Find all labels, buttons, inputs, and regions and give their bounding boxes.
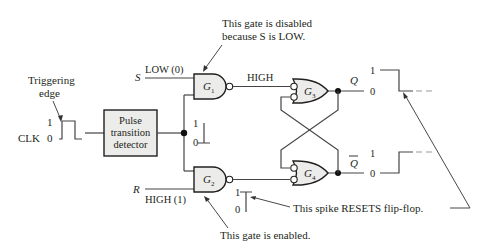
q-high-label: 1 xyxy=(370,65,375,76)
arrow-head-icon xyxy=(403,92,408,99)
q-waveform xyxy=(380,70,432,91)
arrow-head-icon xyxy=(204,196,210,202)
qbar-label-group: Q xyxy=(349,156,358,169)
pulse-transition-detector: Pulse transition detector xyxy=(104,110,157,156)
g1-disabled-annotation: This gate is disabled because S is LOW. xyxy=(203,17,313,72)
spike-high-label: 1 xyxy=(235,187,240,198)
spike-low-label: 0 xyxy=(235,204,240,215)
clk-high-label: 1 xyxy=(47,116,53,128)
r-label: R xyxy=(132,183,140,195)
q-label: Q xyxy=(350,74,358,86)
junction-dot xyxy=(181,130,187,136)
g3-label: G xyxy=(304,85,312,97)
sr-latch-diagram: CLK 1 0 Triggering edge Pulse transition… xyxy=(0,0,487,252)
g1-label: G xyxy=(203,80,211,92)
gate-g2-nand: G 2 xyxy=(194,167,233,192)
arrow-head-icon xyxy=(250,196,256,200)
g1-note-1: This gate is disabled xyxy=(222,17,313,29)
detector-text-1: Pulse xyxy=(119,115,142,126)
g1-output-label: HIGH xyxy=(247,72,274,83)
qbar-label: Q xyxy=(350,157,358,169)
gate-g1-nand: G 1 xyxy=(194,74,233,99)
clk-low-label: 0 xyxy=(47,132,53,144)
s-label: S xyxy=(135,71,141,83)
triggering-edge-text-2: edge xyxy=(39,87,60,99)
s-value: LOW (0) xyxy=(145,64,184,76)
clk-label: CLK xyxy=(18,132,40,144)
gate-g4-nand: G 4 xyxy=(291,161,328,185)
g1-note-2: because S is LOW. xyxy=(222,30,306,42)
r-input: R HIGH (1) xyxy=(132,183,194,206)
qbar-high-label: 1 xyxy=(370,148,375,159)
qbar-waveform xyxy=(380,152,432,173)
triggering-edge-text-1: Triggering xyxy=(28,74,75,86)
gate-g3-nand: G 3 xyxy=(291,79,328,103)
detector-text-3: detector xyxy=(114,139,148,150)
spike-resets-text: This spike RESETS flip-flop. xyxy=(293,202,423,214)
q-low-label: 0 xyxy=(370,86,375,97)
pulse-low-label: 0 xyxy=(193,137,198,148)
g2-label: G xyxy=(203,173,211,185)
g3-subscript: 3 xyxy=(312,92,316,100)
g2-subscript: 2 xyxy=(211,180,215,188)
g1-subscript: 1 xyxy=(211,87,215,95)
g4-label: G xyxy=(304,167,312,179)
triggering-edge-annotation: Triggering edge xyxy=(28,74,75,122)
r-value: HIGH (1) xyxy=(145,194,187,206)
cross-coupling-wires xyxy=(281,91,338,173)
s-input: S LOW (0) xyxy=(135,64,194,83)
pulse-waveform: 1 0 xyxy=(193,118,210,148)
qbar-low-label: 0 xyxy=(370,168,375,179)
g2-note: This gate is enabled. xyxy=(220,229,311,241)
clk-waveform: CLK 1 0 xyxy=(18,116,82,144)
spike-resets-annotation: This spike RESETS flip-flop. xyxy=(250,92,470,214)
g2-spike-waveform: 1 0 xyxy=(235,187,252,215)
g4-subscript: 4 xyxy=(312,174,316,182)
pulse-high-label: 1 xyxy=(193,118,198,129)
detector-text-2: transition xyxy=(111,127,151,138)
